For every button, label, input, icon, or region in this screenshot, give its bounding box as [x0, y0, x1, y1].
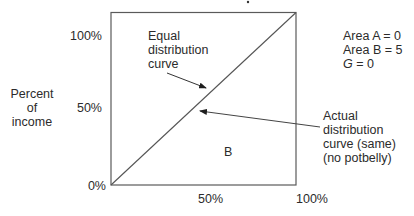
stats-block: Area A = 0 Area B = 5 G = 0: [343, 29, 402, 71]
y-axis-label-line-3: income: [4, 115, 60, 129]
gini-symbol: G: [343, 57, 353, 71]
cropped-title-mark: [247, 1, 249, 3]
actual-label-line-3: curve (same): [323, 137, 396, 151]
lorenz-diagram: Percent of income 100% 50% 0% 50% 100% E…: [0, 0, 414, 216]
y-axis-label: Percent of income: [4, 87, 60, 129]
actual-distribution-label: Actual distribution curve (same) (no pot…: [323, 109, 396, 165]
actual-curve-arrow: [200, 111, 320, 127]
gini-value: = 0: [353, 57, 374, 71]
gini-stat: G = 0: [343, 57, 402, 71]
actual-label-line-4: (no potbelly): [323, 151, 396, 165]
area-a-stat: Area A = 0: [343, 29, 402, 43]
y-tick-100: 100%: [60, 29, 102, 43]
equal-curve-arrow: [167, 73, 206, 88]
area-b-stat: Area B = 5: [343, 43, 402, 57]
y-axis-label-line-2: of: [4, 101, 60, 115]
y-axis-label-line-1: Percent: [4, 87, 60, 101]
y-tick-0: 0%: [60, 179, 106, 193]
y-tick-50: 50%: [60, 101, 102, 115]
equal-label-line-3: curve: [148, 57, 208, 71]
actual-label-line-1: Actual: [323, 109, 396, 123]
equal-label-line-2: distribution: [148, 43, 208, 57]
x-tick-50: 50%: [198, 192, 223, 206]
actual-label-line-2: distribution: [323, 123, 396, 137]
equal-distribution-label: Equal distribution curve: [148, 29, 208, 71]
area-b-label: B: [224, 145, 232, 159]
x-tick-100: 100%: [296, 192, 328, 206]
equal-label-line-1: Equal: [148, 29, 208, 43]
